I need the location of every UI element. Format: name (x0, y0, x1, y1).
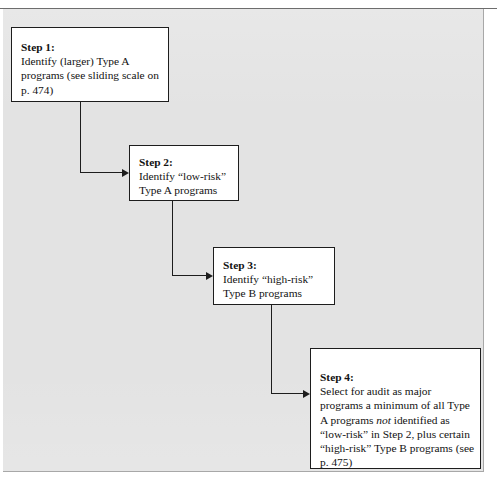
step-2-text: Step 2: Identify “low-risk” Type A progr… (139, 155, 232, 198)
step-3-text: Step 3: Identify “high-risk” Type B prog… (223, 258, 328, 301)
step-3-title: Step 3: (223, 258, 328, 272)
flowchart-node-step-4: Step 4: Select for audit as major progra… (310, 348, 481, 469)
step-4-body: Select for audit as major programs a min… (320, 384, 474, 469)
connector-2-horizontal-segment (172, 275, 206, 276)
running-head (150, 0, 480, 7)
connector-3-vertical-segment (271, 305, 272, 394)
flowchart-node-step-1: Step 1: Identify (larger) Type A program… (11, 27, 169, 102)
connector-2-vertical-segment (172, 201, 173, 276)
connector-3-horizontal-segment (271, 393, 303, 394)
step-4-body-emphasis: not (376, 414, 391, 426)
flowchart-node-step-2: Step 2: Identify “low-risk” Type A progr… (129, 145, 239, 201)
step-3-body: Identify “high-risk” Type B programs (223, 272, 328, 300)
step-4-title: Step 4: (320, 370, 474, 384)
flowchart-node-step-3: Step 3: Identify “high-risk” Type B prog… (213, 247, 335, 305)
step-2-body: Identify “low-risk” Type A programs (139, 169, 232, 197)
arrowhead-icon-step4 (303, 390, 310, 398)
arrowhead-icon-step3 (206, 272, 213, 280)
step-2-title: Step 2: (139, 155, 232, 169)
arrowhead-icon-step2 (122, 169, 129, 177)
step-4-text: Step 4: Select for audit as major progra… (320, 370, 474, 469)
step-1-text: Step 1: Identify (larger) Type A program… (21, 40, 162, 97)
step-1-title: Step 1: (21, 40, 162, 54)
page-canvas: Step 1: Identify (larger) Type A program… (0, 0, 497, 490)
step-1-body: Identify (larger) Type A programs (see s… (21, 54, 162, 97)
connector-1-vertical-segment (80, 102, 81, 173)
flowchart-panel: Step 1: Identify (larger) Type A program… (3, 9, 484, 472)
connector-1-horizontal-segment (80, 172, 122, 173)
